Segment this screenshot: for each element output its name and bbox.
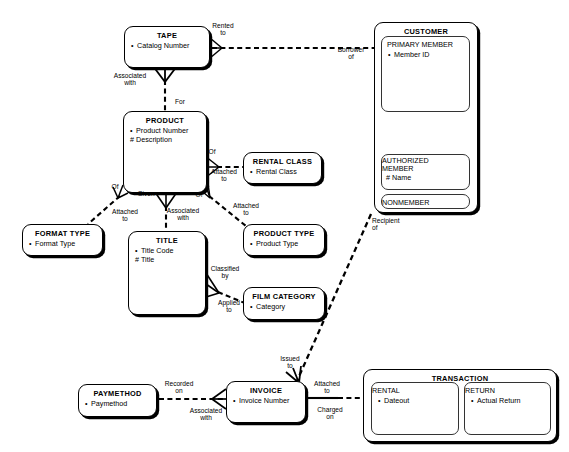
entity-product[interactable]: PRODUCT •Product Number #Description — [123, 111, 207, 193]
label-line: on — [157, 387, 201, 394]
attribute-label: Title — [141, 255, 154, 264]
attribute-row: •Invoice Number — [233, 397, 305, 406]
label-line: to — [273, 362, 307, 369]
label-line: Recorded — [157, 380, 201, 387]
entity-product-attributes: •Product Number #Description — [124, 125, 206, 144]
entity-format-type[interactable]: FORMAT TYPE •Format Type — [22, 224, 103, 256]
label-line: Rented — [205, 22, 241, 29]
label-line: Associated — [157, 207, 209, 214]
subentity-authorized-member-attributes: #Name — [382, 173, 469, 183]
entity-format-type-title: FORMAT TYPE — [23, 225, 102, 238]
entity-invoice[interactable]: INVOICE •Invoice Number — [226, 381, 306, 423]
entity-invoice-title: INVOICE — [227, 382, 305, 395]
attribute-label: Actual Return — [477, 396, 521, 405]
relationship-label-given: Given — [133, 190, 159, 197]
relationship-label-attached-to-formattype: Attached to — [104, 208, 146, 223]
relationship-label-rented-to: Rented to — [205, 22, 241, 37]
label-line: Borrower — [329, 46, 373, 53]
entity-format-type-attributes: •Format Type — [23, 238, 102, 249]
label-line: Associated — [104, 72, 156, 79]
subentity-return[interactable]: RETURN •Actual Return — [464, 382, 551, 435]
relationship-label-attached-to-transaction: Attached to — [306, 380, 348, 395]
attribute-label: Dateout — [384, 396, 409, 405]
attribute-row: #Name — [386, 174, 469, 183]
label-line: Of — [205, 148, 219, 155]
entity-tape[interactable]: TAPE •Catalog Number — [124, 26, 210, 68]
label-line: Applied — [210, 299, 248, 306]
attribute-label: Paymethod — [91, 399, 127, 408]
label-line: Associated — [180, 407, 232, 414]
relationship-label-of-rentalclass: Of — [205, 148, 219, 155]
label-line: to — [225, 209, 267, 216]
entity-product-type-attributes: •Product Type — [244, 238, 324, 249]
relationship-label-of-producttype: Of — [192, 191, 206, 198]
subentity-rental[interactable]: RENTAL •Dateout — [371, 382, 459, 435]
attribute-row: •Rental Class — [250, 168, 321, 177]
label-line: For — [170, 98, 190, 105]
relationship-label-recorded-on: Recorded on — [157, 380, 201, 395]
entity-film-category-title: FILM CATEGORY — [244, 288, 324, 301]
label-line: on — [310, 413, 350, 420]
relationship-label-for: For — [170, 98, 190, 105]
attribute-label: Rental Class — [256, 167, 297, 176]
relationship-label-of-formattype: Of — [108, 183, 122, 190]
subentity-nonmember-title: NONMEMBER — [382, 195, 469, 207]
label-line: Attached — [225, 202, 267, 209]
attribute-row: •Catalog Number — [131, 42, 209, 51]
entity-tape-attributes: •Catalog Number — [125, 40, 209, 51]
entity-tape-title: TAPE — [125, 27, 209, 40]
attribute-row: #Description — [130, 136, 206, 145]
relationship-label-classified-by: Classified by — [202, 265, 248, 280]
attribute-label: Description — [136, 135, 172, 144]
label-line: Attached — [203, 168, 245, 175]
entity-paymethod-attributes: •Paymethod — [79, 398, 156, 409]
attribute-label: Product Type — [256, 239, 298, 248]
label-line: Of — [192, 191, 206, 198]
attribute-row: •Format Type — [29, 240, 102, 249]
label-line: of — [372, 224, 416, 231]
entity-invoice-attributes: •Invoice Number — [227, 395, 305, 406]
attribute-row: •Category — [250, 303, 324, 312]
entity-product-title: PRODUCT — [124, 112, 206, 125]
attribute-row: •Actual Return — [471, 397, 550, 406]
subentity-nonmember[interactable]: NONMEMBER — [381, 194, 470, 209]
relationship-label-associated-with-title: Associated with — [157, 207, 209, 222]
label-line: Attached — [104, 208, 146, 215]
subentity-rental-title: RENTAL — [372, 383, 458, 395]
relationship-label-applied-to: Applied to — [210, 299, 248, 314]
label-line: Issued — [273, 355, 307, 362]
attribute-label: Invoice Number — [239, 396, 289, 405]
label-line: of — [329, 53, 373, 60]
label-line: with — [180, 414, 232, 421]
entity-customer-title: CUSTOMER — [375, 23, 477, 36]
subentity-return-title: RETURN — [465, 383, 550, 395]
label-line: Classified — [202, 265, 248, 272]
attribute-label: Catalog Number — [137, 41, 189, 50]
subentity-primary-member[interactable]: PRIMARY MEMBER •Member ID — [381, 36, 470, 112]
entity-product-type[interactable]: PRODUCT TYPE •Product Type — [243, 224, 325, 256]
er-diagram-canvas: TAPE •Catalog Number PRODUCT •Product Nu… — [0, 0, 569, 452]
entity-rental-class[interactable]: RENTAL CLASS •Rental Class — [243, 152, 322, 184]
entity-title[interactable]: TITLE •Title Code #Title — [128, 231, 206, 315]
attribute-row: •Dateout — [378, 397, 458, 406]
attribute-row: •Paymethod — [85, 400, 156, 409]
label-line: to — [210, 306, 248, 313]
subentity-authorized-member[interactable]: AUTHORIZED MEMBER #Name — [381, 154, 470, 190]
subentity-rental-attributes: •Dateout — [372, 395, 458, 406]
label-line: to — [205, 29, 241, 36]
label-line: with — [157, 214, 209, 221]
entity-paymethod[interactable]: PAYMETHOD •Paymethod — [78, 384, 157, 417]
entity-film-category[interactable]: FILM CATEGORY •Category — [243, 287, 325, 320]
label-line: to — [203, 175, 245, 182]
entity-rental-class-title: RENTAL CLASS — [244, 153, 321, 166]
label-line: Recipient — [372, 217, 416, 224]
label-line: to — [306, 387, 348, 394]
attribute-row: #Title — [135, 256, 205, 265]
subentity-authorized-member-title-line2: MEMBER — [382, 165, 469, 173]
label-line: Attached — [306, 380, 348, 387]
attribute-label: Member ID — [394, 50, 430, 59]
entity-rental-class-attributes: •Rental Class — [244, 166, 321, 177]
relationship-label-borrower-of: Borrower of — [329, 46, 373, 61]
attribute-row: •Product Type — [250, 240, 324, 249]
attribute-label: Format Type — [35, 239, 75, 248]
